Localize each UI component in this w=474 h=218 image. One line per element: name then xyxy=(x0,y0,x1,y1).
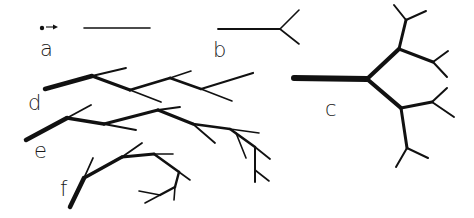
branch-segment xyxy=(154,154,179,172)
branch-segment xyxy=(294,78,367,79)
branch-segment xyxy=(45,76,92,89)
branch-segment xyxy=(104,124,136,130)
branching-diagram: abcdef xyxy=(0,0,474,218)
branch-segment xyxy=(170,71,191,78)
branch-segment xyxy=(432,88,447,102)
branch-segment xyxy=(255,170,269,181)
branch-segment xyxy=(92,76,130,90)
branch-segment xyxy=(67,118,104,124)
panel-e: e xyxy=(26,105,270,182)
branch-segment xyxy=(367,49,399,79)
branch-segment xyxy=(399,20,406,49)
branch-segment xyxy=(158,107,180,110)
branch-segment xyxy=(432,102,454,117)
arrow-head-icon xyxy=(53,25,58,30)
branch-segment xyxy=(104,110,158,124)
panel-a: a xyxy=(40,25,150,62)
branch-segment xyxy=(401,108,407,148)
panel-label-e: e xyxy=(34,139,47,163)
branch-segment xyxy=(280,10,299,29)
branch-segment xyxy=(255,147,270,159)
branch-segment xyxy=(433,51,448,62)
panel-f: f xyxy=(60,143,190,207)
branch-segment xyxy=(280,29,299,44)
branch-segment xyxy=(130,78,170,90)
branch-segment xyxy=(160,187,175,195)
panel-d: d xyxy=(28,68,253,115)
branch-segment xyxy=(175,172,179,187)
panel-label-b: b xyxy=(213,38,226,62)
panel-b: b xyxy=(213,10,299,62)
branch-segment xyxy=(201,73,253,89)
panel-c: c xyxy=(294,5,454,167)
branch-segment xyxy=(139,191,160,195)
origin-dot xyxy=(40,26,44,30)
branch-segment xyxy=(396,148,407,167)
branch-segment xyxy=(70,178,84,207)
branch-segment xyxy=(201,89,232,101)
branch-segment xyxy=(179,172,190,180)
branch-segment xyxy=(130,90,161,102)
branch-segment xyxy=(158,110,193,124)
panel-label-d: d xyxy=(28,91,41,115)
branch-segment xyxy=(406,11,426,20)
branch-segment xyxy=(433,62,447,77)
branch-segment xyxy=(67,105,91,118)
branch-segment xyxy=(170,78,201,89)
branch-segment xyxy=(407,148,428,158)
panel-label-c: c xyxy=(325,97,337,121)
branch-segment xyxy=(394,5,406,20)
branch-segment xyxy=(401,102,432,108)
panel-label-f: f xyxy=(60,177,68,201)
branch-segment xyxy=(367,79,401,108)
branch-segment xyxy=(26,118,67,140)
branch-segment xyxy=(92,68,126,76)
branch-segment xyxy=(174,187,175,200)
panels-layer: abcdef xyxy=(26,5,454,207)
branch-segment xyxy=(145,195,160,203)
panel-label-a: a xyxy=(40,37,53,61)
branch-segment xyxy=(399,49,433,62)
